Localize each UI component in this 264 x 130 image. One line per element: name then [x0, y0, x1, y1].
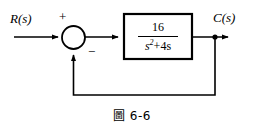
input-signal-label: R(s) — [10, 12, 32, 25]
output-signal-label: C(s) — [213, 11, 235, 24]
summing-junction-circle — [62, 26, 85, 49]
transfer-function-numerator: 16 — [152, 20, 164, 36]
summing-junction-plus-sign: + — [59, 10, 66, 23]
transfer-function-expression: 16 s2+4s — [124, 14, 192, 59]
summing-junction-minus-sign: − — [88, 45, 95, 58]
transfer-function-denominator: s2+4s — [145, 37, 171, 54]
figure-caption: 圖 6-6 — [0, 106, 264, 123]
block-diagram-figure: R(s) C(s) + − 16 s2+4s 圖 6-6 — [0, 0, 264, 130]
denominator-rest: +4s — [154, 39, 171, 53]
